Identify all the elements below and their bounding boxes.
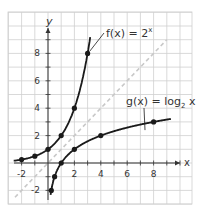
data-point xyxy=(52,174,57,179)
graph: -224688642-2 y x f(x) = 2x g(x) = log2 x xyxy=(0,0,203,212)
f-label: f(x) = 2x xyxy=(106,26,152,40)
x-axis-label: x xyxy=(184,157,190,168)
data-point xyxy=(151,119,156,124)
data-point xyxy=(45,147,50,152)
data-point xyxy=(49,188,54,193)
g-label: g(x) = log2 x xyxy=(126,95,196,110)
x-tick-label: 4 xyxy=(98,169,104,179)
x-tick-label: 8 xyxy=(151,169,157,179)
g-curve xyxy=(51,119,171,195)
y-tick-label: 2 xyxy=(34,131,40,141)
data-point xyxy=(72,147,77,152)
data-point xyxy=(59,133,64,138)
y-tick-label: 6 xyxy=(34,76,40,86)
data-point xyxy=(85,51,90,56)
identity-line xyxy=(15,40,167,198)
data-point xyxy=(59,160,64,165)
y-tick-label: 4 xyxy=(34,103,40,113)
y-axis-label: y xyxy=(45,15,53,28)
data-point xyxy=(98,133,103,138)
x-tick-label: -2 xyxy=(17,169,26,179)
labels: y x f(x) = 2x g(x) = log2 x xyxy=(45,15,196,168)
data-point xyxy=(32,154,37,159)
f-curve xyxy=(14,37,91,161)
data-point xyxy=(72,106,77,111)
x-tick-label: 6 xyxy=(124,169,130,179)
y-tick-label: 8 xyxy=(34,48,40,58)
y-tick-label: -2 xyxy=(31,185,40,195)
x-tick-label: 2 xyxy=(72,169,78,179)
data-point xyxy=(19,157,24,162)
